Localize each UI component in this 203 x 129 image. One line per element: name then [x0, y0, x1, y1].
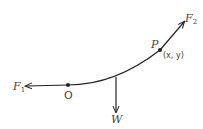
- point-p-label: P: [150, 38, 159, 51]
- origin-point: [66, 83, 70, 87]
- f2-arrow: [160, 22, 184, 50]
- f1-label: F1: [12, 80, 25, 94]
- weight-label: W: [111, 113, 124, 126]
- f2-label: F2: [184, 12, 197, 26]
- cable-curve: [68, 50, 160, 85]
- origin-label: O: [64, 89, 73, 102]
- point-p: [158, 48, 162, 52]
- f1-arrow: [26, 85, 68, 86]
- point-coords-label: (x, y): [163, 51, 184, 60]
- cable-force-diagram: F1 F2 O P (x, y) W: [0, 0, 203, 129]
